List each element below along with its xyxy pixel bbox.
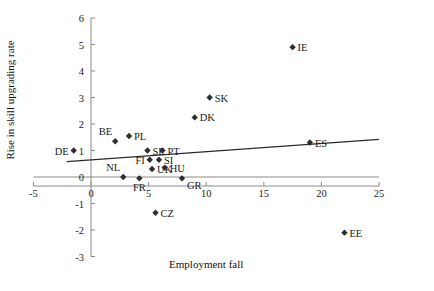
data-point-label-be: BE: [99, 126, 112, 137]
data-point-label-gr: GR: [187, 180, 202, 191]
y-axis-title: Rise in skill upgrading rate: [4, 40, 16, 159]
data-point-label-fr: FR: [133, 182, 146, 193]
data-point-marker-fi[interactable]: [147, 157, 153, 163]
data-point-label-es: ES: [315, 138, 327, 149]
data-point-label-fi: FI: [135, 155, 145, 166]
data-point-marker-nl[interactable]: [120, 174, 126, 180]
data-point-label-sk: SK: [215, 93, 229, 104]
data-point-label-pl: PL: [134, 131, 146, 142]
data-point-marker-fr[interactable]: [136, 175, 142, 181]
x-tick-label: 20: [316, 188, 327, 199]
x-axis-title: Employment fall: [169, 258, 243, 270]
data-point-label-de: DE: [55, 146, 69, 157]
y-tick-label: -3: [75, 252, 84, 263]
data-point-label-cz: CZ: [161, 208, 174, 219]
data-point-marker-uk[interactable]: [149, 166, 155, 172]
x-tick-label: -5: [29, 188, 38, 199]
data-point-marker-gr[interactable]: [179, 175, 185, 181]
data-point-label-dk: DK: [200, 112, 216, 123]
y-tick-label: -1: [75, 199, 84, 210]
data-point-label-nl: NL: [106, 162, 120, 173]
data-point-marker-cz[interactable]: [152, 210, 158, 216]
x-tick-label: 15: [259, 188, 270, 199]
scatter-chart-figure: -3-2-10123456-50510152025DEBEPLNLFRSEFIS…: [0, 0, 434, 291]
data-point-marker-se[interactable]: [144, 147, 150, 153]
data-point-label-hu: HU: [170, 163, 186, 174]
y-tick-label: 3: [79, 93, 84, 104]
data-point-marker-de[interactable]: [71, 147, 77, 153]
x-tick-label: 10: [201, 188, 212, 199]
data-point-marker-sk[interactable]: [206, 94, 212, 100]
y-tick-label: 0: [79, 172, 84, 183]
data-point-marker-si[interactable]: [156, 157, 162, 163]
y-tick-label: 5: [79, 40, 84, 51]
plot-area: -3-2-10123456-50510152025DEBEPLNLFRSEFIS…: [0, 0, 434, 291]
y-tick-label: 6: [79, 13, 84, 24]
y-tick-label: 2: [79, 119, 84, 130]
data-point-label-pt: PT: [167, 146, 180, 157]
y-tick-label: -2: [75, 225, 84, 236]
data-point-marker-be[interactable]: [112, 138, 118, 144]
data-point-marker-pl[interactable]: [126, 133, 132, 139]
data-point-marker-ee[interactable]: [341, 229, 347, 235]
data-point-marker-dk[interactable]: [191, 114, 197, 120]
data-point-marker-ie[interactable]: [289, 44, 295, 50]
data-point-label-ee: EE: [349, 228, 362, 239]
y-tick-label: 4: [79, 66, 85, 77]
data-point-label-ie: IE: [298, 42, 308, 53]
y-tick-label: 1: [79, 146, 84, 157]
x-tick-label: 0: [88, 188, 93, 199]
x-tick-label: 25: [374, 188, 385, 199]
x-tick-label: 5: [146, 188, 151, 199]
